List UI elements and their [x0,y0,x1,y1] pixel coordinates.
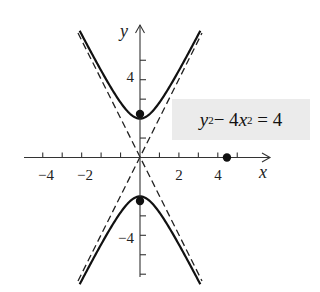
x-tick-label: −2 [77,167,93,183]
point-marker [136,110,144,118]
equation-label: y2 − 4x2 = 4 [172,99,310,140]
y-tick-label: −4 [118,230,134,246]
x-tick-label: 4 [214,167,222,183]
point-marker [223,153,231,161]
eq-end: = 4 [253,109,283,131]
x-tick-label: 2 [175,167,183,183]
x-axis [24,153,270,163]
eq-mid: − 4 [214,109,239,131]
x-axis-label: x [258,162,267,182]
hyperbola-plot: −4 −2 2 4 4 −4 y x [0,0,320,292]
eq-x: x [239,109,247,131]
point-marker [136,197,144,205]
y-axis [136,25,147,277]
eq-y: y [200,109,208,131]
x-tick-label: −4 [38,167,54,183]
y-tick-label: 4 [127,69,135,85]
y-axis-label: y [118,21,128,41]
